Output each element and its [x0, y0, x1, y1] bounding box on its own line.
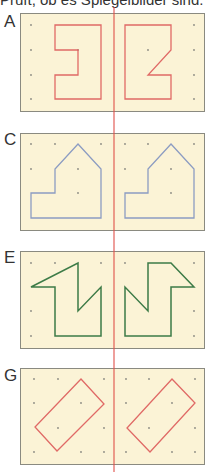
panel-e [21, 252, 205, 349]
panel-a [21, 14, 205, 112]
panel-c [21, 134, 205, 231]
mirror-figures [0, 0, 208, 472]
panel-g [21, 369, 205, 465]
